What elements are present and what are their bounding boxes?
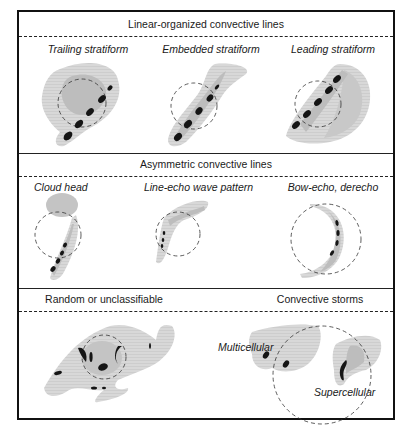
supercellular-storm-shape bbox=[333, 336, 382, 386]
leading-stratiform-shape bbox=[286, 64, 370, 144]
radar-pattern-artwork bbox=[0, 0, 409, 435]
label-multicellular: Multicellular bbox=[218, 341, 273, 353]
cloud-head-shape bbox=[46, 193, 78, 280]
label-supercellular: Supercellular bbox=[314, 386, 375, 398]
random-pattern-shape bbox=[44, 325, 175, 402]
trailing-stratiform-shape bbox=[42, 63, 120, 146]
